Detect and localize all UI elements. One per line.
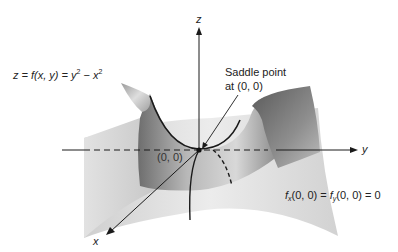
function-label: z = f(x, y) = y2 − x2: [13, 68, 102, 81]
function-lhs: z = f(x, y) =: [13, 69, 71, 81]
partial-mid: (0, 0) =: [292, 189, 330, 201]
surface-left-wing: [121, 83, 150, 112]
x-axis-label: x: [93, 236, 99, 247]
z-axis-label: z: [196, 14, 202, 25]
term2-exp: 2: [99, 68, 103, 75]
y-axis-label: y: [362, 144, 368, 155]
partials-label: fx(0, 0) = fy(0, 0) = 0: [285, 190, 381, 202]
saddle-annotation: Saddle point at (0, 0): [225, 65, 286, 93]
saddle-surface-diagram: [0, 0, 398, 252]
minus-sign: −: [80, 69, 93, 81]
annotation-line2: at (0, 0): [225, 79, 286, 93]
origin-label: (0, 0): [157, 152, 183, 163]
annotation-line1: Saddle point: [225, 65, 286, 79]
y-axis-arrowhead: [350, 147, 358, 153]
partial-end: (0, 0) = 0: [336, 189, 380, 201]
z-axis-arrowhead: [196, 27, 202, 35]
saddle-point-dot: [196, 147, 201, 152]
